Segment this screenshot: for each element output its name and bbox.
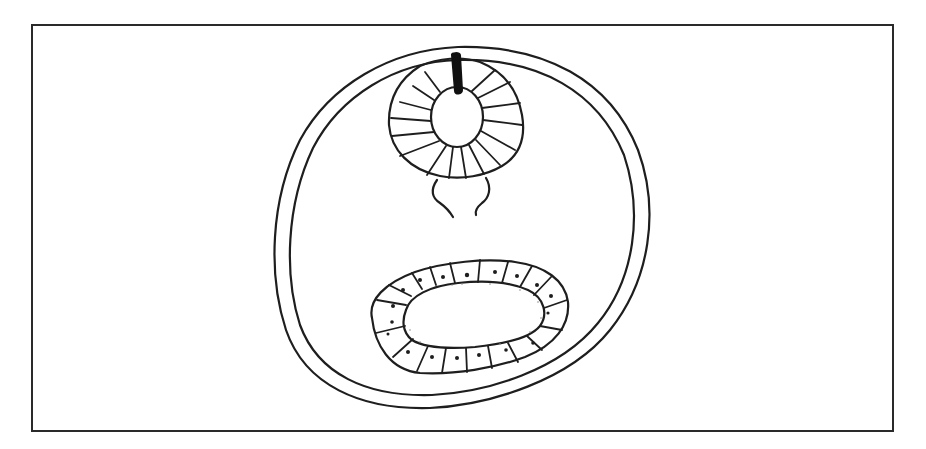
body-wall-outer <box>274 47 649 408</box>
intestine-stippling <box>409 283 542 345</box>
pharynx-lumen <box>431 87 483 147</box>
diagram-canvas <box>0 0 926 449</box>
intestine-outer <box>371 260 568 373</box>
nerve-right <box>476 178 490 215</box>
nerve-left <box>433 180 453 217</box>
body-wall-inner <box>290 60 634 395</box>
intestine-lumen <box>404 282 545 348</box>
